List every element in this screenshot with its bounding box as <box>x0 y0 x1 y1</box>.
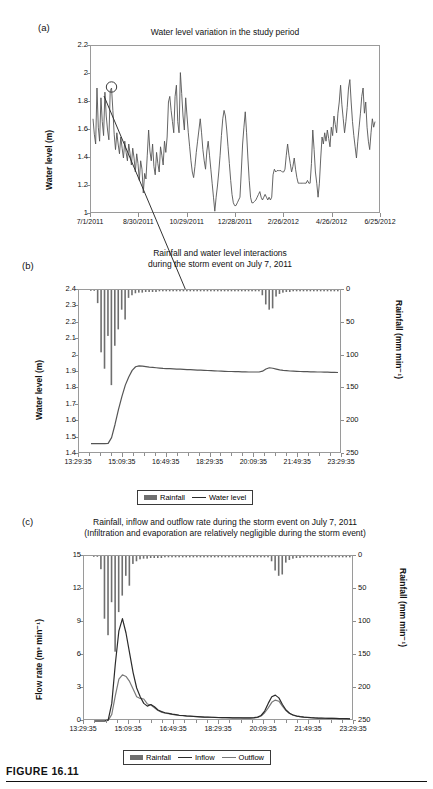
rainfall-bar <box>285 556 287 563</box>
rainfall-bar <box>161 556 163 558</box>
axis-tick <box>173 720 174 724</box>
axis-minor-tick <box>117 720 118 723</box>
axis-tick <box>353 588 356 589</box>
axis-minor-tick <box>319 453 320 456</box>
rainfall-bar <box>179 290 181 291</box>
panel-b-ylabel-left: Water level (m) <box>34 360 44 420</box>
rainfall-bar <box>217 556 219 557</box>
rainfall-bar <box>148 290 150 292</box>
axis-tick-label: 150 <box>358 649 371 658</box>
axis-tick <box>341 420 344 421</box>
axis-tick-label: 23:29:35 <box>323 725 383 732</box>
axis-tick-label: 50 <box>358 583 366 592</box>
rainfall-bar <box>278 556 280 576</box>
axis-minor-tick <box>308 453 309 456</box>
axis-tick-label: 1.8 <box>66 96 88 105</box>
rainfall-bar <box>97 556 99 557</box>
rainfall-bar <box>338 556 340 557</box>
axis-tick <box>235 213 236 217</box>
rainfall-bar <box>260 556 262 557</box>
rainfall-bar <box>296 290 298 291</box>
rainfall-bar <box>303 290 305 291</box>
rainfall-bar <box>114 290 116 346</box>
rainfall-bar <box>165 290 167 291</box>
panel-b-ylabel-right: Rainfall (mm min⁻¹) <box>394 300 404 379</box>
axis-tick <box>353 621 356 622</box>
rainfall-bar <box>316 290 318 291</box>
rainfall-bar <box>235 556 237 557</box>
rainfall-bar <box>272 290 274 308</box>
axis-tick-label: 100 <box>346 350 359 359</box>
rainfall-bar <box>207 290 209 291</box>
panel-c-ylabel-right: Rainfall (mm min⁻¹) <box>398 568 408 647</box>
axis-tick <box>353 654 356 655</box>
rainfall-bar <box>210 290 212 291</box>
axis-tick <box>332 213 333 217</box>
inflow-line-c <box>94 619 350 721</box>
axis-tick-label: 2.4 <box>54 284 76 293</box>
axis-tick-label: 1.8 <box>54 382 76 391</box>
rainfall-bar <box>320 290 322 291</box>
rainfall-bars-c <box>93 556 351 652</box>
panel-c-ylabel-left: Flow rate (m³ min⁻¹) <box>34 619 44 700</box>
panel-c-title-line1: Rainfall, inflow and outflow rate during… <box>50 517 400 528</box>
axis-tick-label: 250 <box>346 448 359 457</box>
panel-c-letter: (c) <box>22 516 33 527</box>
legend-label-inflow-c: Inflow <box>195 753 215 762</box>
rainfall-bar <box>274 556 276 571</box>
axis-tick-label: 100 <box>358 616 371 625</box>
rainfall-bar <box>313 556 315 557</box>
axis-tick <box>128 720 129 724</box>
outflow-line-c <box>94 675 350 721</box>
panel-a-ylabel: Water level (m) <box>44 130 54 190</box>
axis-tick-label: 9 <box>59 616 81 625</box>
axis-tick <box>263 720 264 724</box>
rainfall-bar <box>150 556 152 558</box>
rainfall-bar <box>335 556 337 557</box>
axis-tick-label: 50 <box>346 317 354 326</box>
rainfall-bar <box>323 290 325 291</box>
rainfall-bar <box>299 290 301 291</box>
rainfall-bar <box>289 290 291 292</box>
axis-minor-tick <box>331 720 332 723</box>
rainfall-bar <box>306 556 308 557</box>
rainfall-bar <box>232 556 234 557</box>
axis-minor-tick <box>177 453 178 456</box>
axis-tick-label: 200 <box>346 415 359 424</box>
panel-a-letter: (a) <box>38 22 50 33</box>
rainfall-bar <box>241 290 243 291</box>
rainfall-bar <box>124 290 126 320</box>
rainfall-bar <box>330 290 332 291</box>
axis-tick-label: 6/25/2012 <box>350 218 410 225</box>
caption-rule-divider <box>6 781 427 782</box>
rainfall-bar <box>169 290 171 291</box>
rainfall-bar <box>321 556 323 557</box>
rainfall-bar <box>153 556 155 558</box>
rainfall-bar <box>286 290 288 292</box>
rainfall-bar <box>136 556 138 561</box>
panel-b-title-line1: Rainfall and water level interactions <box>105 248 335 259</box>
axis-tick-label: 2 <box>54 350 76 359</box>
rainfall-bar <box>246 556 248 557</box>
axis-minor-tick <box>199 453 200 456</box>
inflow-line-swatch-icon <box>178 757 192 758</box>
rainfall-bar <box>107 290 109 336</box>
axis-tick-label: 1.6 <box>66 124 88 133</box>
rainfall-bar <box>292 556 294 559</box>
rainfall-bar <box>214 556 216 557</box>
axis-tick-label: 0 <box>358 550 362 559</box>
axis-tick-label: 0 <box>59 715 81 724</box>
rainfall-swatch-icon <box>130 755 143 760</box>
axis-minor-tick <box>330 453 331 456</box>
axis-tick <box>353 555 356 556</box>
rainfall-bar <box>200 290 202 291</box>
axis-minor-tick <box>231 453 232 456</box>
axis-minor-tick <box>100 453 101 456</box>
rainfall-bar <box>93 556 95 557</box>
rainfall-bar <box>289 556 291 560</box>
rainfall-bar <box>292 290 294 291</box>
axis-tick-label: 1.7 <box>54 399 76 408</box>
axis-minor-tick <box>94 720 95 723</box>
rainfall-bar <box>210 556 212 557</box>
rainfall-bar <box>196 290 198 291</box>
